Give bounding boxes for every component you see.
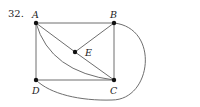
vertex-A <box>34 21 38 25</box>
graph-diagram: 32. A B C D E <box>0 0 200 107</box>
label-E: E <box>84 47 92 58</box>
edge-B-E <box>75 23 114 52</box>
label-D: D <box>31 85 40 96</box>
edges <box>36 23 145 100</box>
label-C: C <box>110 85 118 96</box>
vertex-D <box>34 78 38 82</box>
problem-number: 32. <box>8 8 24 19</box>
vertex-E <box>73 50 77 54</box>
label-A: A <box>31 9 39 20</box>
edge-B-D-curve <box>36 23 145 100</box>
label-B: B <box>109 9 117 20</box>
vertex-C <box>112 78 116 82</box>
vertex-B <box>112 21 116 25</box>
